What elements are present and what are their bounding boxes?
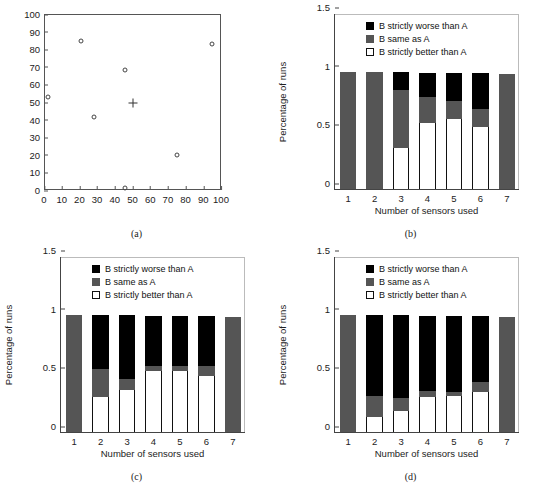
bar-segment-better bbox=[446, 396, 462, 432]
stacked-bar bbox=[393, 72, 409, 189]
x-tick-label: 1 bbox=[346, 193, 351, 204]
legend-entry-worse: B strictly worse than A bbox=[366, 20, 468, 32]
legend-label: B strictly better than A bbox=[105, 289, 193, 301]
scatter-x-tick: 20 bbox=[74, 194, 85, 205]
legend-entry-same: B same as A bbox=[92, 276, 194, 288]
tick-mark bbox=[44, 32, 48, 33]
tick-mark bbox=[186, 186, 187, 190]
stacked-bar bbox=[446, 316, 462, 432]
bar-segment-worse bbox=[92, 315, 108, 369]
x-tick-label: 7 bbox=[504, 436, 509, 447]
bar-segment-better bbox=[393, 148, 409, 189]
tick-mark bbox=[61, 367, 65, 368]
y-tick-label: 1.5 bbox=[317, 2, 330, 13]
legend-entry-worse: B strictly worse than A bbox=[92, 263, 194, 275]
bar-segment-same bbox=[66, 315, 82, 432]
scatter-y-tick: 70 bbox=[29, 61, 40, 72]
stacked-bar bbox=[92, 315, 108, 432]
legend-swatch-worse bbox=[366, 22, 374, 30]
bar-segment-same bbox=[446, 101, 462, 119]
scatter-point-circle bbox=[123, 68, 128, 73]
stacked-bar bbox=[66, 315, 82, 432]
x-tick-label: 7 bbox=[504, 193, 509, 204]
bar-segment-worse bbox=[393, 315, 409, 398]
stacked-bar bbox=[472, 73, 488, 189]
legend-swatch-better bbox=[92, 291, 100, 299]
tick-mark bbox=[44, 49, 48, 50]
stacked-bar bbox=[145, 316, 161, 432]
scatter-x-tick: 70 bbox=[163, 194, 174, 205]
x-tick-label: 5 bbox=[451, 193, 456, 204]
tick-mark bbox=[97, 186, 98, 190]
tick-mark bbox=[44, 186, 45, 190]
legend-swatch-same bbox=[366, 278, 374, 286]
legend-entry-better: B strictly better than A bbox=[366, 289, 468, 301]
bar-chart-b: Percentage of runs 00.511.5 1234567 Numb… bbox=[274, 0, 547, 243]
panel-caption-b: (b) bbox=[274, 228, 547, 239]
scatter-plot-area: 0102030405060708090100 01020304050607080… bbox=[44, 14, 221, 190]
stacked-bar bbox=[366, 72, 382, 189]
stacked-bar bbox=[172, 316, 188, 432]
stacked-bar bbox=[419, 316, 435, 432]
stacked-bar bbox=[393, 315, 409, 432]
tick-mark bbox=[132, 186, 133, 190]
legend-entry-better: B strictly better than A bbox=[92, 289, 194, 301]
y-axis-label: Percentage of runs bbox=[3, 305, 14, 385]
scatter-x-tick: 40 bbox=[110, 194, 121, 205]
scatter-x-tick: 90 bbox=[198, 194, 209, 205]
bar-segment-better bbox=[119, 390, 135, 432]
bar-segment-better bbox=[419, 123, 435, 189]
legend: B strictly worse than AB same as AB stri… bbox=[366, 263, 468, 302]
legend-label: B strictly worse than A bbox=[379, 263, 468, 275]
tick-mark bbox=[335, 309, 339, 310]
bar-segment-worse bbox=[172, 316, 188, 366]
y-tick-label: 1.5 bbox=[317, 245, 330, 256]
legend-label: B same as A bbox=[105, 276, 156, 288]
bar-segment-same bbox=[340, 315, 356, 432]
scatter-x-tick: 100 bbox=[213, 194, 229, 205]
tick-mark bbox=[203, 186, 204, 190]
tick-mark bbox=[115, 186, 116, 190]
x-tick-label: 2 bbox=[372, 436, 377, 447]
tick-mark bbox=[61, 309, 65, 310]
legend: B strictly worse than AB same as AB stri… bbox=[366, 20, 468, 59]
tick-mark bbox=[44, 67, 48, 68]
tick-mark bbox=[44, 102, 48, 103]
x-axis-label: Number of sensors used bbox=[334, 448, 519, 459]
bar-segment-same bbox=[393, 398, 409, 411]
y-tick-label: 1 bbox=[325, 60, 330, 71]
scatter-point-plus bbox=[128, 98, 137, 107]
tick-mark bbox=[335, 367, 339, 368]
bar-chart-c: Percentage of runs 00.511.5 1234567 Numb… bbox=[0, 243, 273, 486]
legend-swatch-same bbox=[92, 278, 100, 286]
legend-label: B strictly better than A bbox=[379, 46, 467, 58]
tick-mark bbox=[44, 137, 48, 138]
bar-segment-same bbox=[366, 72, 382, 189]
scatter-x-tick: 30 bbox=[92, 194, 103, 205]
tick-mark bbox=[44, 14, 48, 15]
legend-label: B same as A bbox=[379, 33, 430, 45]
bar-segment-same bbox=[393, 90, 409, 147]
bar-segment-better bbox=[419, 397, 435, 432]
y-tick-label: 1.5 bbox=[43, 245, 56, 256]
bar-segment-better bbox=[198, 376, 214, 432]
tick-mark bbox=[44, 155, 48, 156]
bar-segment-same bbox=[340, 72, 356, 189]
stacked-bar bbox=[340, 315, 356, 432]
legend-label: B strictly worse than A bbox=[379, 20, 468, 32]
bar-segment-better bbox=[393, 411, 409, 432]
x-tick-label: 2 bbox=[98, 436, 103, 447]
scatter-x-tick: 60 bbox=[145, 194, 156, 205]
bar-segment-better bbox=[92, 397, 108, 432]
scatter-y-tick: 100 bbox=[24, 9, 40, 20]
scatter-point-circle bbox=[45, 94, 50, 99]
scatter-x-tick: 80 bbox=[180, 194, 191, 205]
tick-mark bbox=[335, 66, 339, 67]
bar-segment-worse bbox=[145, 316, 161, 366]
scatter-y-tick: 20 bbox=[29, 149, 40, 160]
x-tick-label: 1 bbox=[72, 436, 77, 447]
stacked-bar bbox=[225, 317, 241, 432]
x-tick-label: 6 bbox=[204, 436, 209, 447]
tick-mark bbox=[44, 120, 48, 121]
scatter-point-circle bbox=[91, 114, 96, 119]
